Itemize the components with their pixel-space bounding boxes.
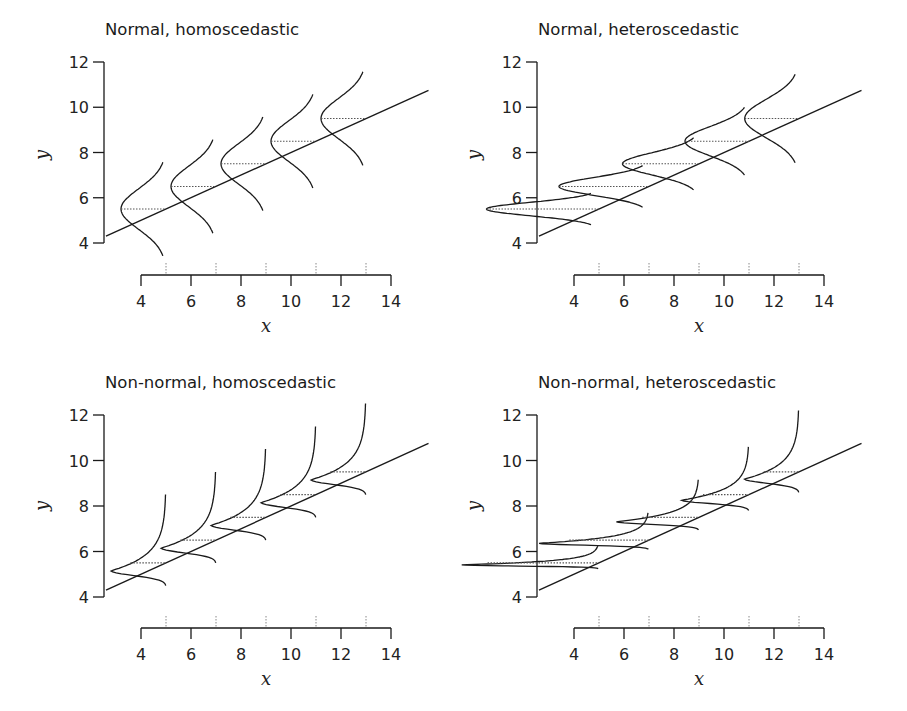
y-tick-label: 4 [512,588,522,607]
regression-line [539,443,862,590]
x-axis-label: x [694,668,704,689]
density-curve [539,513,648,549]
density-curve [462,546,599,569]
y-tick-label: 6 [512,543,522,562]
density-curve [616,480,698,530]
panel-nonnormal-heteroscedastic: Non-normal, heteroscedastic 468101246810… [0,0,907,711]
density-curve [745,411,799,493]
x-tick-label: 10 [714,645,734,664]
x-tick-label: 12 [764,645,784,664]
y-tick-label: 12 [502,406,522,425]
y-tick-label: 10 [502,452,522,471]
chart-plot: 4681012468101214yx [0,0,907,711]
x-tick-label: 8 [669,645,679,664]
x-tick-label: 6 [619,645,629,664]
x-tick-label: 4 [569,645,579,664]
y-tick-label: 8 [512,497,522,516]
density-curve [682,447,749,511]
y-axis-label: y [463,500,484,512]
x-tick-label: 14 [814,645,834,664]
